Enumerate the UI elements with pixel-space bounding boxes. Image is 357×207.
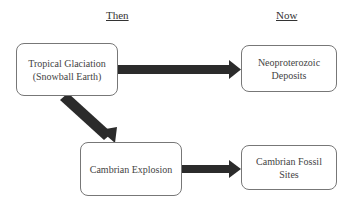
node-cambrian-fossil-sites: Cambrian Fossil Sites [241,145,337,190]
arrow-glaciation-to-cambrian-explosion [60,93,117,143]
node-label-line1: Cambrian Explosion [90,163,173,176]
node-label-line1: Cambrian Fossil [256,155,322,168]
node-label-line2: Deposits [258,69,320,82]
node-label-line2: Sites [256,168,322,181]
arrow-cambrian-explosion-to-fossil-sites [182,160,241,178]
node-tropical-glaciation: Tropical Glaciation (Snowball Earth) [16,43,118,96]
node-cambrian-explosion: Cambrian Explosion [80,142,182,196]
node-neoproterozoic-deposits: Neoproterozoic Deposits [241,45,337,92]
node-label-line1: Neoproterozoic [258,56,320,69]
arrow-glaciation-to-neoproterozoic [118,60,241,79]
node-label-line2: (Snowball Earth) [28,70,106,83]
diagram-canvas: Then Now Tropical Glaciation (Snowball E… [0,0,357,207]
node-label-line1: Tropical Glaciation [28,57,106,70]
